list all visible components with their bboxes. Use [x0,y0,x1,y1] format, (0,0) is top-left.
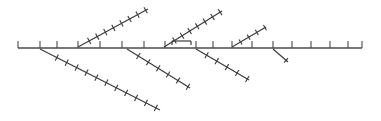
lower-branch-2 [127,49,190,90]
lower-branch-3-tick-2 [225,64,229,70]
lower-branch-2-tick-3 [166,71,170,77]
branches-group [40,7,288,111]
stubs-group [172,41,191,45]
upper-branch-2-tick-1 [180,33,184,39]
upper-branch-3 [232,25,267,47]
lower-branch-3-tick-4 [246,76,250,82]
upper-branch-2-tick-5 [211,14,215,20]
spine-group [18,41,362,48]
horizontal-stub [172,41,191,45]
lower-branch-2-tick-1 [146,59,150,65]
upper-branch-1 [78,7,148,47]
lower-branch-4-stub [273,49,288,63]
lower-branch-3 [196,49,249,82]
lower-branch-3-tick-1 [215,58,219,64]
lower-branch-3-tick-3 [235,70,239,76]
herringbone-diagram [0,0,381,121]
lower-branch-2-tick-0 [136,53,140,59]
diagram-canvas [0,0,381,121]
lower-branch-2-tick-5 [186,84,190,90]
lower-branch-2-tick-4 [176,78,180,84]
lower-branch-2-tick-2 [156,65,160,71]
lower-branch-3-line [196,49,249,80]
upper-branch-2-tick-6 [218,9,222,15]
upper-branch-2-tick-4 [203,19,207,25]
upper-branch-2-tick-2 [188,28,192,34]
upper-branch-2-tick-3 [195,23,199,29]
lower-branch-3-tick-0 [205,52,209,58]
